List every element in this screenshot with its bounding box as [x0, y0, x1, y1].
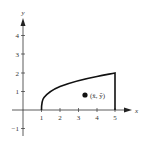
x-tick-label-2: 2: [58, 114, 62, 122]
centroid-label: (x̄, ȳ): [90, 92, 106, 100]
x-tick-label-4: 4: [95, 114, 99, 122]
x-tick-label-5: 5: [113, 114, 117, 122]
y-axis-label: y: [21, 9, 26, 17]
y-axis-arrow-icon: [21, 18, 26, 26]
x-axis-arrow-icon: [124, 108, 132, 113]
x-axis-label: x: [134, 107, 139, 115]
y-tick-label-neg1: −1: [12, 125, 20, 133]
y-tick-label-3: 3: [16, 51, 20, 59]
y-tick-label-1: 1: [16, 88, 20, 96]
x-tick-label-3: 3: [77, 114, 81, 122]
x-tick-label-1: 1: [40, 114, 44, 122]
y-tick-label-4: 4: [16, 32, 20, 40]
centroid-point: [82, 92, 87, 97]
region-diagram: 1 2 3 4 5 4 3 2 1 −1 x y (x̄, ȳ): [0, 0, 144, 149]
y-tick-label-2: 2: [16, 70, 20, 78]
